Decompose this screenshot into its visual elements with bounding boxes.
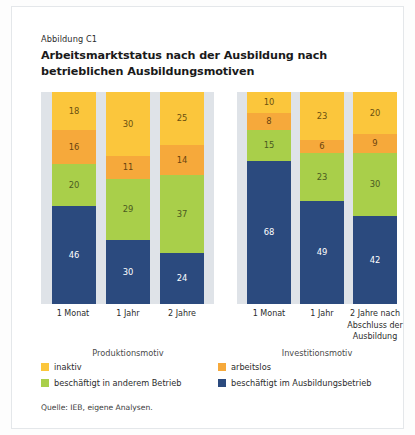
legend-item-inaktiv[interactable]: inaktiv xyxy=(41,362,82,372)
bar-produktionsmotiv-1-monat[interactable]: 46 20 16 18 xyxy=(52,92,96,304)
segment-value: 23 xyxy=(317,173,328,181)
segment-inaktiv[interactable]: 10 xyxy=(247,92,291,113)
segment-value: 20 xyxy=(69,181,80,189)
legend-item-ausbildungsbetrieb[interactable]: beschäftigt im Ausbildungsbetrieb xyxy=(218,378,371,388)
segment-anderer-betrieb[interactable]: 20 xyxy=(52,164,96,206)
segment-arbeitslos[interactable]: 14 xyxy=(160,145,204,175)
segment-value: 30 xyxy=(123,120,134,128)
segment-value: 23 xyxy=(317,112,328,120)
segment-ausbildungsbetrieb[interactable]: 49 xyxy=(300,201,344,304)
segment-value: 20 xyxy=(370,109,381,117)
legend-item-arbeitslos[interactable]: arbeitslos xyxy=(218,362,271,372)
chart-legend: inaktiv arbeitslos beschäftigt in andere… xyxy=(41,362,396,394)
tick-label-investitionsmotiv-2-jahre: 2 Jahre nach Abschluss der Ausbildung xyxy=(338,308,412,343)
segment-inaktiv[interactable]: 25 xyxy=(160,92,204,145)
legend-label-anderer-betrieb: beschäftigt in anderem Betrieb xyxy=(54,378,182,388)
segment-value: 30 xyxy=(123,268,134,276)
segment-value: 8 xyxy=(266,117,271,125)
source-note: Quelle: IEB, eigene Analysen. xyxy=(41,403,153,412)
segment-arbeitslos[interactable]: 8 xyxy=(247,113,291,130)
segment-anderer-betrieb[interactable]: 15 xyxy=(247,130,291,162)
legend-swatch-icon-anderer-betrieb xyxy=(41,379,49,387)
segment-value: 25 xyxy=(177,114,188,122)
segment-inaktiv[interactable]: 30 xyxy=(106,92,150,156)
segment-value: 24 xyxy=(177,274,188,282)
figure-page: Abbildung C1 Arbeitsmarktstatus nach der… xyxy=(0,0,415,435)
segment-ausbildungsbetrieb[interactable]: 42 xyxy=(353,216,397,304)
segment-value: 46 xyxy=(69,251,80,259)
legend-label-inaktiv: inaktiv xyxy=(54,362,82,372)
bar-investitionsmotiv-1-jahr[interactable]: 49 23 6 23 xyxy=(300,92,344,304)
segment-value: 42 xyxy=(370,256,381,264)
segment-value: 15 xyxy=(264,141,275,149)
segment-inaktiv[interactable]: 18 xyxy=(52,92,96,130)
legend-swatch-icon-ausbildungsbetrieb xyxy=(218,379,226,387)
group-label-produktionsmotiv: Produktionsmotiv xyxy=(67,348,189,358)
segment-value: 9 xyxy=(372,139,377,147)
figure-number: Abbildung C1 xyxy=(41,34,97,44)
bar-investitionsmotiv-2-jahre[interactable]: 42 30 9 20 xyxy=(353,92,397,304)
segment-ausbildungsbetrieb[interactable]: 24 xyxy=(160,253,204,304)
segment-value: 14 xyxy=(177,156,188,164)
legend-item-anderer-betrieb[interactable]: beschäftigt in anderem Betrieb xyxy=(41,378,182,388)
segment-anderer-betrieb[interactable]: 37 xyxy=(160,175,204,253)
segment-value: 49 xyxy=(317,248,328,256)
legend-swatch-icon-inaktiv xyxy=(41,363,49,371)
legend-swatch-icon-arbeitslos xyxy=(218,363,226,371)
legend-row-2: beschäftigt in anderem Betrieb beschäfti… xyxy=(41,378,396,394)
segment-arbeitslos[interactable]: 16 xyxy=(52,130,96,164)
legend-row-1: inaktiv arbeitslos xyxy=(41,362,396,378)
segment-ausbildungsbetrieb[interactable]: 30 xyxy=(106,240,150,304)
segment-value: 6 xyxy=(319,142,324,150)
bar-investitionsmotiv-1-monat[interactable]: 68 15 8 10 xyxy=(247,92,291,304)
segment-arbeitslos[interactable]: 6 xyxy=(300,140,344,153)
figure-frame: Abbildung C1 Arbeitsmarktstatus nach der… xyxy=(11,6,404,429)
figure-title: Arbeitsmarktstatus nach der Ausbildung n… xyxy=(41,48,393,79)
legend-label-ausbildungsbetrieb: beschäftigt im Ausbildungsbetrieb xyxy=(231,378,371,388)
segment-value: 37 xyxy=(177,210,188,218)
segment-anderer-betrieb[interactable]: 23 xyxy=(300,153,344,201)
group-label-investitionsmotiv: Investitionsmotiv xyxy=(256,348,378,358)
segment-arbeitslos[interactable]: 9 xyxy=(353,134,397,153)
tick-label-produktionsmotiv-2-jahre: 2 Jahre xyxy=(145,308,219,320)
segment-value: 11 xyxy=(123,163,134,171)
legend-label-arbeitslos: arbeitslos xyxy=(231,362,271,372)
bar-produktionsmotiv-1-jahr[interactable]: 30 29 11 30 xyxy=(106,92,150,304)
segment-arbeitslos[interactable]: 11 xyxy=(106,156,150,179)
segment-inaktiv[interactable]: 23 xyxy=(300,92,344,140)
bar-produktionsmotiv-2-jahre[interactable]: 24 37 14 25 xyxy=(160,92,204,304)
segment-value: 10 xyxy=(264,98,275,106)
segment-inaktiv[interactable]: 20 xyxy=(353,92,397,134)
segment-value: 30 xyxy=(370,180,381,188)
segment-anderer-betrieb[interactable]: 30 xyxy=(353,153,397,216)
segment-value: 29 xyxy=(123,205,134,213)
segment-ausbildungsbetrieb[interactable]: 46 xyxy=(52,206,96,304)
chart-plot-area: 46 20 16 18 30 29 11 30 24 37 14 25 68 1… xyxy=(41,92,396,304)
segment-value: 68 xyxy=(264,228,275,236)
segment-value: 16 xyxy=(69,143,80,151)
segment-ausbildungsbetrieb[interactable]: 68 xyxy=(247,161,291,304)
segment-anderer-betrieb[interactable]: 29 xyxy=(106,179,150,240)
segment-value: 18 xyxy=(69,107,80,115)
